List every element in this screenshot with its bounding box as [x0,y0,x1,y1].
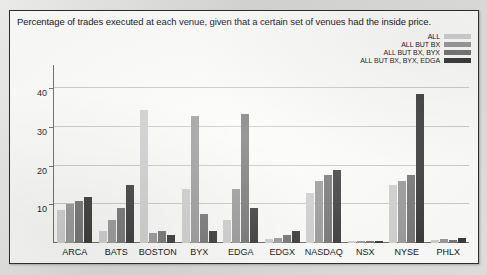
bar [149,233,157,243]
bar [265,239,273,243]
bar [57,210,65,243]
x-axis-category-label: NSX [356,247,375,257]
bar [306,193,314,243]
bar [191,116,199,244]
bar [449,240,457,243]
bar [200,214,208,243]
bar [209,231,217,243]
bar-group: NSX [345,73,387,243]
x-axis-category-label: ARCA [62,247,87,257]
bar [241,114,249,243]
bar [366,241,374,243]
x-axis-category-label: BOSTON [139,247,177,257]
x-axis-category-label: BATS [105,247,128,257]
legend-item: ALL [428,33,471,40]
bar-group: EDGA [220,73,262,243]
bar [357,241,365,243]
bar [315,181,323,243]
bar [324,175,332,243]
legend-label: ALL [428,33,440,40]
bar-group: BOSTON [137,73,179,243]
bar [117,208,125,243]
bar [292,231,300,243]
legend-label: ALL BUT BX, BYX, EDGA [360,57,440,64]
bar [126,185,134,243]
chart-title: Percentage of trades executed at each ve… [17,16,474,27]
bar [398,181,406,243]
legend-item: ALL BUT BX [401,41,471,48]
chart-figure: Percentage of trades executed at each ve… [9,10,479,264]
bar-group: NASDAQ [303,73,345,243]
chart-legend: ALL ALL BUT BX ALL BUT BX, BYX ALL BUT B… [360,33,471,64]
bar [431,240,439,243]
x-axis-category-label: EDGA [228,247,254,257]
bar [333,170,341,243]
bar-group: BYX [179,73,221,243]
legend-swatch [444,50,471,55]
bar [375,241,383,243]
bar-group: EDGX [262,73,304,243]
bar-groups: ARCABATSBOSTONBYXEDGAEDGXNASDAQNSXNYSEPH… [54,73,469,243]
bar [274,238,282,243]
bar [250,208,258,243]
bar [84,197,92,243]
bar [232,189,240,243]
legend-item: ALL BUT BX, BYX, EDGA [360,57,471,64]
bar [407,175,415,243]
bar [66,204,74,243]
legend-label: ALL BUT BX, BYX [384,49,440,56]
bar [140,110,148,243]
legend-label: ALL BUT BX [401,41,440,48]
bar-group: BATS [96,73,138,243]
x-axis-category-label: PHLX [436,247,460,257]
plot-area: 10203040 ARCABATSBOSTONBYXEDGAEDGXNASDAQ… [54,73,469,243]
bar [99,231,107,243]
x-axis-category-label: NASDAQ [305,247,343,257]
bar-group: PHLX [428,73,470,243]
bar [108,220,116,243]
x-axis-category-label: NYSE [394,247,419,257]
x-axis-category-label: EDGX [269,247,295,257]
bar [223,220,231,243]
legend-swatch [444,58,471,63]
legend-swatch [444,42,471,47]
bar [182,189,190,243]
bar [158,231,166,243]
bar [283,235,291,243]
x-axis-category-label: BYX [190,247,208,257]
bar [75,201,83,244]
bar [416,94,424,243]
legend-item: ALL BUT BX, BYX [384,49,471,56]
bar [458,238,466,243]
bar [389,185,397,243]
bar [440,239,448,243]
bar-group: ARCA [54,73,96,243]
legend-swatch [444,34,471,39]
bar-group: NYSE [386,73,428,243]
bar [348,241,356,243]
bar [167,235,175,243]
